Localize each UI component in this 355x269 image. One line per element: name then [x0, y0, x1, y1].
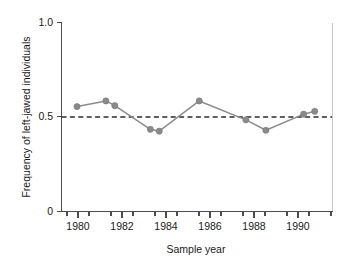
y-axis-title: Frequency of left-jawed individuals [20, 36, 32, 197]
chart-figure: 1.0 0.5 0 1980 [0, 0, 355, 269]
data-point [103, 98, 109, 104]
y-tick-marks [57, 23, 62, 212]
x-axis-title: Sample year [167, 243, 226, 255]
line-chart: 1.0 0.5 0 1980 [0, 0, 355, 269]
data-point [263, 127, 269, 133]
x-tick-label-1984: 1984 [154, 220, 178, 232]
data-point [147, 126, 153, 132]
data-point [156, 128, 162, 134]
data-point [196, 98, 202, 104]
x-tick-label-1988: 1988 [242, 220, 266, 232]
y-tick-label-05: 0.5 [38, 110, 53, 122]
data-point [301, 111, 307, 117]
x-tick-label-1986: 1986 [198, 220, 222, 232]
data-point [112, 103, 118, 109]
data-point [74, 104, 80, 110]
x-tick-marks-minor [67, 212, 331, 217]
x-tick-label-1990: 1990 [286, 220, 310, 232]
data-point [312, 108, 318, 114]
y-tick-label-0: 0 [47, 205, 53, 217]
x-tick-label-1980: 1980 [66, 220, 90, 232]
y-tick-label-1: 1.0 [38, 16, 53, 28]
data-point [243, 117, 249, 123]
x-tick-label-1982: 1982 [110, 220, 134, 232]
